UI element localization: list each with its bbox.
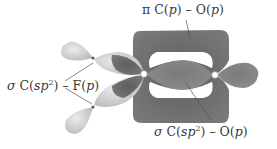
sigma-symbol: σ — [154, 124, 163, 139]
separator: – — [205, 124, 219, 139]
separator: – — [182, 2, 196, 17]
pi-bond-label: π C(p) – O(p) — [142, 4, 224, 17]
orbital-p: p — [86, 78, 94, 93]
orbital-p: p — [235, 124, 243, 139]
orbital-sp: sp — [181, 124, 195, 139]
sigma-symbol: σ — [7, 78, 16, 93]
separator: – — [58, 78, 72, 93]
atom-o: O — [196, 2, 206, 17]
orbital-sp: sp — [34, 78, 48, 93]
oxygen-node — [212, 72, 219, 79]
atom-c: C — [154, 2, 164, 17]
sigma-cf-label: σ C(sp2) – F(p) — [7, 79, 99, 93]
atom-c: C — [20, 78, 30, 93]
atom-o: O — [220, 124, 230, 139]
carbon-node — [141, 71, 148, 78]
orbital-p: p — [169, 2, 177, 17]
superscript: 2 — [48, 78, 53, 87]
pi-symbol: π — [142, 2, 150, 17]
atom-c: C — [167, 124, 177, 139]
atom-f: F — [73, 78, 82, 93]
superscript: 2 — [195, 124, 200, 133]
sigma-co-label: σ C(sp2) – O(p) — [154, 125, 248, 139]
orbital-p: p — [211, 2, 219, 17]
orbital-diagram: π C(p) – O(p) σ C(sp2) – F(p) σ C(sp2) –… — [0, 0, 277, 149]
